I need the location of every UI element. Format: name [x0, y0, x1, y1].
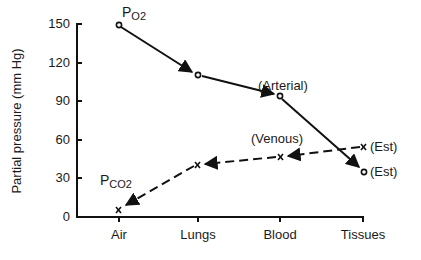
x-tick-tissues: Tissues [323, 227, 403, 242]
x-tick-air: Air [79, 227, 159, 242]
y-tick-0: 0 [30, 209, 70, 224]
x-axis [76, 217, 364, 222]
po2-label-main: P [122, 4, 131, 20]
x-tick-blood: Blood [240, 227, 320, 242]
est-po2-annotation: (Est) [370, 164, 397, 179]
est-pco2-annotation: (Est) [370, 139, 397, 154]
pco2-label: PCO2 [100, 172, 132, 190]
pco2-label-main: P [100, 172, 109, 188]
y-tick-90: 90 [30, 93, 70, 108]
y-tick-120: 120 [30, 55, 70, 70]
y-tick-60: 60 [30, 132, 70, 147]
venous-annotation: (Venous) [251, 131, 303, 146]
y-axis-label: Partial pressure (mm Hg) [9, 48, 24, 193]
x-tick-lungs: Lungs [158, 227, 238, 242]
y-tick-30: 30 [30, 170, 70, 185]
y-tick-150: 150 [30, 16, 70, 31]
arterial-annotation: (Arterial) [258, 78, 308, 93]
partial-pressure-chart: 150 120 90 60 30 0 Air Lungs Blood Tissu… [0, 0, 421, 260]
pco2-series [116, 144, 366, 213]
po2-label: PO2 [122, 4, 146, 22]
y-axis [77, 23, 82, 218]
pco2-label-sub: CO2 [109, 178, 132, 190]
po2-label-sub: O2 [131, 10, 146, 22]
